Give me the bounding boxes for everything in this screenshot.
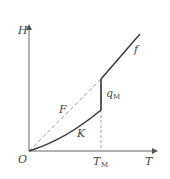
liquid-curve-f <box>101 34 140 79</box>
x-axis-label: T <box>145 155 154 168</box>
F-label: F <box>58 103 67 116</box>
qm-label: q <box>106 87 113 100</box>
origin-label: O <box>18 153 27 166</box>
K-label: K <box>76 127 86 140</box>
f-label: f <box>133 43 140 56</box>
solid-curve-K <box>29 110 101 151</box>
tm-subscript: M <box>101 161 108 169</box>
enthalpy-temperature-diagram: H T O T M F K f q M <box>0 0 170 179</box>
y-axis-label: H <box>17 24 28 37</box>
qm-subscript: M <box>113 93 120 101</box>
